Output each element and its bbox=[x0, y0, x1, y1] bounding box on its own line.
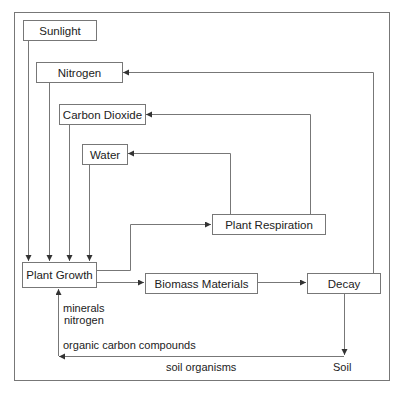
node-label: Water bbox=[90, 149, 120, 161]
node-label: Sunlight bbox=[39, 25, 81, 37]
node-water: Water bbox=[82, 144, 128, 165]
node-plant-growth: Plant Growth bbox=[22, 262, 97, 288]
node-plant-respiration: Plant Respiration bbox=[212, 214, 326, 235]
node-label: Biomass Materials bbox=[155, 278, 249, 290]
label-minerals: minerals bbox=[63, 302, 105, 314]
node-label: Decay bbox=[328, 278, 361, 290]
node-biomass-materials: Biomass Materials bbox=[145, 273, 258, 294]
node-soil: Soil bbox=[333, 361, 351, 373]
node-label: Carbon Dioxide bbox=[63, 109, 142, 121]
node-carbon-dioxide: Carbon Dioxide bbox=[59, 104, 146, 125]
node-label: Plant Growth bbox=[26, 269, 92, 281]
node-sunlight: Sunlight bbox=[23, 20, 97, 41]
label-soil-organisms: soil organisms bbox=[166, 361, 236, 373]
label-organic-carbon: organic carbon compounds bbox=[63, 339, 196, 351]
node-label: Plant Respiration bbox=[225, 219, 313, 231]
node-nitrogen: Nitrogen bbox=[36, 62, 123, 83]
diagram-connectors bbox=[0, 0, 400, 393]
node-decay: Decay bbox=[307, 273, 381, 294]
node-label: Nitrogen bbox=[58, 67, 101, 79]
label-nitrogen: nitrogen bbox=[64, 314, 104, 326]
